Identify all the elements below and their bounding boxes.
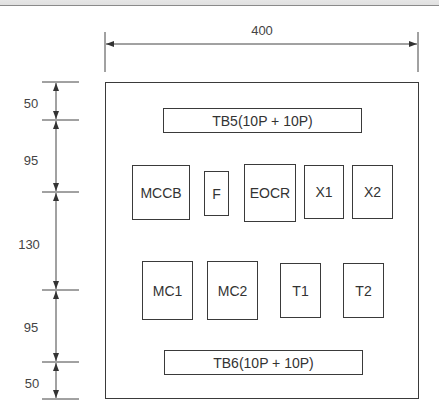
mccb-label: MCCB	[140, 185, 181, 201]
height-dimension-label-4: 95	[24, 321, 38, 334]
mc2-label: MC2	[218, 283, 248, 299]
terminal-block-tb6: TB6(10P + 10P)	[164, 350, 363, 375]
component-t1: T1	[280, 263, 321, 318]
height-dimension-label-2: 95	[24, 154, 38, 167]
mc1-label: MC1	[153, 283, 183, 299]
component-fuse: F	[204, 171, 229, 216]
component-mc1: MC1	[142, 261, 193, 320]
height-dimension-label-5: 50	[25, 377, 39, 390]
component-t2: T2	[343, 263, 384, 318]
height-dimension-label-3: 130	[18, 238, 40, 251]
t1-label: T1	[292, 283, 308, 299]
height-dimension-label-1: 50	[24, 97, 38, 110]
tb6-label: TB6(10P + 10P)	[213, 355, 314, 371]
component-mccb: MCCB	[132, 165, 190, 220]
x2-label: X2	[364, 184, 381, 200]
component-mc2: MC2	[207, 261, 258, 320]
component-eocr: EOCR	[244, 164, 296, 222]
component-x1: X1	[304, 165, 344, 219]
x1-label: X1	[315, 184, 332, 200]
t2-label: T2	[355, 283, 371, 299]
width-dimension-label: 400	[251, 24, 273, 37]
eocr-label: EOCR	[250, 185, 290, 201]
terminal-block-tb5: TB5(10P + 10P)	[163, 108, 362, 133]
component-x2: X2	[352, 165, 393, 219]
fuse-label: F	[212, 186, 221, 202]
tb5-label: TB5(10P + 10P)	[212, 113, 313, 129]
